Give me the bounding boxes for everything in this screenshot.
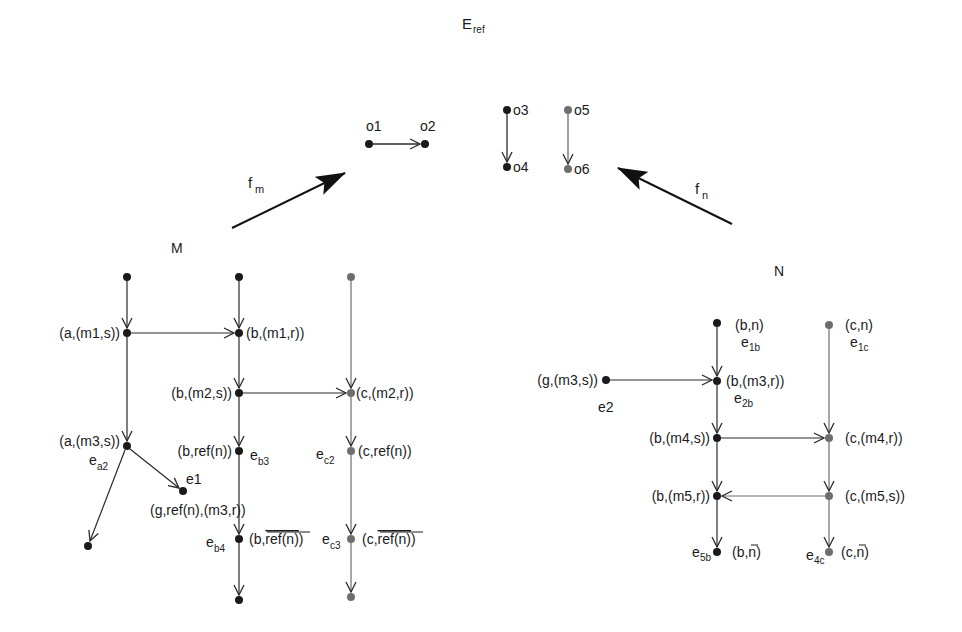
- label-c-nbar: (c,n): [841, 544, 869, 560]
- svg-text:e: e: [206, 534, 214, 550]
- node-e1b: [713, 319, 721, 327]
- node-ec2: [347, 447, 355, 455]
- node-o4: [503, 163, 511, 171]
- label-o1: o1: [366, 118, 382, 134]
- node-e1: [179, 487, 187, 495]
- svg-text:4c: 4c: [814, 555, 825, 566]
- svg-text:f: f: [695, 180, 700, 197]
- graph-M: (a,(m1,s)) (b,(m1,r)) (b,(m2,s)) (c,(m2,…: [59, 273, 423, 604]
- svg-text:e: e: [850, 334, 858, 350]
- svg-text:(g,ref(n),(m3,r)): (g,ref(n),(m3,r)): [150, 502, 246, 518]
- svg-text:(b,n): (b,n): [735, 317, 764, 333]
- svg-text:(c,ref(n)): (c,ref(n)): [358, 443, 412, 459]
- node-b-m1r: [235, 329, 243, 337]
- svg-text:c3: c3: [330, 540, 341, 551]
- label-graph-N: N: [774, 263, 784, 279]
- svg-text:e: e: [806, 547, 814, 563]
- eref-title: E ref: [462, 15, 485, 35]
- svg-text:e: e: [692, 544, 700, 560]
- node-a-init: [123, 273, 131, 281]
- svg-text:a2: a2: [97, 461, 109, 472]
- svg-text:1b: 1b: [749, 342, 761, 353]
- label-o2: o2: [420, 118, 436, 134]
- node-c-init: [347, 273, 355, 281]
- svg-text:(c,(m4,r)): (c,(m4,r)): [845, 430, 903, 446]
- svg-text:5b: 5b: [700, 552, 712, 563]
- svg-text:(b,(m5,r)): (b,(m5,r)): [652, 488, 710, 504]
- morphism-fm: f m: [232, 173, 345, 228]
- svg-text:b4: b4: [214, 543, 226, 554]
- svg-text:ref: ref: [473, 24, 485, 35]
- node-c-end: [347, 593, 355, 601]
- graph-N: (b,n) e 1b (c,n) e 1c (g,(m3,s)) e2 (b,(…: [537, 317, 905, 566]
- svg-text:(b,(m3,r)): (b,(m3,r)): [726, 373, 784, 389]
- node-a-end: [84, 542, 92, 550]
- node-b-m2s: [235, 389, 243, 397]
- svg-text:(b,(m4,s)): (b,(m4,s)): [649, 430, 710, 446]
- svg-text:c2: c2: [324, 455, 335, 466]
- node-e1c: [825, 321, 833, 329]
- label-b-nbar: (b,n): [732, 544, 761, 560]
- node-e2: [602, 376, 610, 384]
- svg-text:(a,(m3,s)): (a,(m3,s)): [59, 433, 120, 449]
- svg-text:1c: 1c: [858, 342, 869, 353]
- node-c-m4r: [825, 434, 833, 442]
- label-o6: o6: [574, 161, 590, 177]
- node-b-init: [235, 273, 243, 281]
- svg-text:e: e: [250, 447, 258, 463]
- svg-text:e2: e2: [598, 399, 614, 415]
- node-e2b: [713, 377, 721, 385]
- svg-text:(c,(m5,s)): (c,(m5,s)): [845, 488, 905, 504]
- eref-graph: o1 o2 o3 o4 o5 o6: [365, 102, 590, 177]
- node-o1: [365, 140, 373, 148]
- svg-text:e: e: [741, 334, 749, 350]
- node-o3: [503, 106, 511, 114]
- svg-text:m: m: [255, 183, 264, 195]
- morphism-fn: f n: [618, 168, 732, 224]
- fn-arrow-icon: [618, 168, 732, 224]
- svg-text:(b,(m1,r)): (b,(m1,r)): [246, 325, 304, 341]
- svg-text:(b,ref(n)): (b,ref(n)): [178, 443, 232, 459]
- node-c-m2r: [347, 389, 355, 397]
- node-c-m5s: [825, 492, 833, 500]
- label-o4: o4: [513, 159, 529, 175]
- label-b-refn-bar: (b,ref(n)): [249, 531, 303, 547]
- label-c-refn-bar: (c,ref(n)): [362, 531, 416, 547]
- svg-text:(b,(m2,s)): (b,(m2,s)): [171, 385, 232, 401]
- label-o3: o3: [513, 102, 529, 118]
- svg-text:e1: e1: [186, 471, 202, 487]
- event-structure-diagram: E ref o1 o2 o3 o4 o5 o6 f m f n M N: [0, 0, 962, 632]
- svg-text:2b: 2b: [742, 398, 754, 409]
- svg-text:E: E: [462, 15, 472, 32]
- svg-text:e: e: [316, 446, 324, 462]
- svg-text:(a,(m1,s)): (a,(m1,s)): [59, 325, 120, 341]
- node-eb3: [235, 447, 243, 455]
- svg-text:(c,n): (c,n): [845, 317, 873, 333]
- node-o2: [421, 140, 429, 148]
- svg-text:b3: b3: [258, 456, 270, 467]
- svg-text:e: e: [322, 531, 330, 547]
- label-o5: o5: [574, 102, 590, 118]
- node-ec3: [347, 535, 355, 543]
- label-graph-M: M: [171, 240, 183, 256]
- node-o6: [564, 165, 572, 173]
- node-b-m4s: [713, 434, 721, 442]
- node-b-m5r: [713, 492, 721, 500]
- svg-text:n: n: [702, 189, 708, 201]
- node-e5b: [713, 548, 721, 556]
- svg-text:e: e: [89, 452, 97, 468]
- svg-text:f: f: [248, 174, 253, 191]
- svg-text:e: e: [734, 390, 742, 406]
- svg-text:(g,(m3,s)): (g,(m3,s)): [537, 372, 598, 388]
- node-e4c: [825, 548, 833, 556]
- node-eb4: [235, 535, 243, 543]
- node-b-end: [235, 596, 243, 604]
- svg-text:(c,(m2,r)): (c,(m2,r)): [356, 385, 414, 401]
- node-a-m3s: [123, 442, 131, 450]
- node-a-m1s: [123, 329, 131, 337]
- node-o5: [564, 106, 572, 114]
